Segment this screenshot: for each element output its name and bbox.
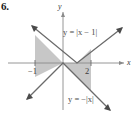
curve-abs-x-minus-1-arrow-right — [116, 27, 123, 34]
equation-label-upper-curve: y = |x − 1| — [63, 28, 97, 37]
graph-plot — [0, 0, 134, 117]
shaded-region-left — [35, 35, 63, 77]
x-axis-arrow — [119, 61, 124, 65]
y-axis-label: y — [58, 3, 62, 11]
x-axis-label: x — [127, 59, 131, 67]
x-tick-label-2: 2 — [85, 67, 89, 76]
equation-label-lower-curve: y = −|x| — [68, 95, 94, 104]
curve-abs-x-minus-1-arrow-left — [31, 25, 38, 32]
x-tick-label-neg-1: −1 — [28, 67, 37, 76]
y-axis-arrow — [61, 12, 65, 17]
figure-container: 6. y = |x − 1| y = −|x| y x −1 2 — [0, 0, 134, 117]
